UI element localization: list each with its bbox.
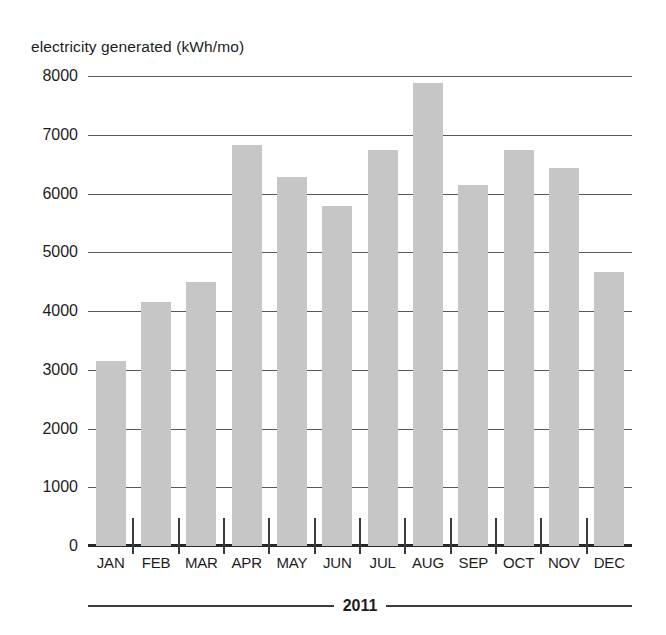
bar [96,361,126,546]
bar-slot [587,76,632,546]
bar-slot [360,76,405,546]
bar-slot [405,76,450,546]
bar [413,83,443,546]
bar [322,206,352,546]
bar-slot [179,76,224,546]
x-tick [450,518,452,554]
bar [504,150,534,546]
x-tick [495,518,497,554]
y-axis-tick-labels: 800070006000500040003000200010000 [0,76,78,546]
year-rule-right [386,605,632,607]
x-tick-label: OCT [496,551,541,577]
x-tick [268,518,270,554]
y-tick-label: 3000 [4,362,78,378]
x-tick [586,518,588,554]
bar-chart: electricity generated (kWh/mo) 800070006… [0,0,666,635]
y-tick-label: 0 [4,538,78,554]
bar-series [88,76,632,546]
bar-slot [496,76,541,546]
bar-slot [315,76,360,546]
x-tick-label: MAY [269,551,314,577]
bar-slot [88,76,133,546]
y-tick-label: 7000 [4,127,78,143]
x-tick-label: MAR [179,551,224,577]
bar [141,302,171,546]
chart-axis-title: electricity generated (kWh/mo) [31,38,244,56]
x-tick [359,518,361,554]
x-tick [314,518,316,554]
x-axis-tick-labels: JANFEBMARAPRMAYJUNJULAUGSEPOCTNOVDEC [88,551,632,577]
x-tick-label: SEP [451,551,496,577]
bar-slot [541,76,586,546]
bar [549,168,579,546]
year-band: 2011 [88,594,632,618]
x-tick-label: APR [224,551,269,577]
x-tick-label: DEC [587,551,632,577]
y-tick-label: 8000 [4,68,78,84]
x-tick [178,518,180,554]
x-tick [132,518,134,554]
x-tick-label: JUN [315,551,360,577]
x-tick-label: FEB [133,551,178,577]
bar [277,177,307,546]
bar [594,272,624,546]
x-tick-label: AUG [405,551,450,577]
x-tick-label: NOV [541,551,586,577]
year-rule-left [88,605,334,607]
y-tick-label: 2000 [4,421,78,437]
x-tick [404,518,406,554]
bar-slot [133,76,178,546]
bar [186,282,216,546]
x-tick [223,518,225,554]
y-tick-label: 6000 [4,186,78,202]
bar [368,150,398,546]
bar [232,145,262,546]
y-tick-label: 4000 [4,303,78,319]
y-tick-label: 1000 [4,479,78,495]
x-tick-label: JUL [360,551,405,577]
plot-area [88,76,632,546]
x-tick-label: JAN [88,551,133,577]
y-tick-label: 5000 [4,244,78,260]
x-tick [540,518,542,554]
bar [458,185,488,546]
bar-slot [269,76,314,546]
bar-slot [451,76,496,546]
year-label: 2011 [334,597,387,615]
bar-slot [224,76,269,546]
